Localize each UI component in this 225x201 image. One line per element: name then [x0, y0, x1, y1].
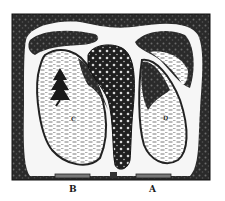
entrance-label-a: A	[149, 184, 156, 194]
region-label-d: D	[163, 114, 168, 121]
region-label-c: C	[71, 115, 76, 122]
garden-plan-diagram	[0, 0, 225, 201]
gate-wall-a	[136, 174, 171, 178]
gate-post-center	[110, 172, 117, 178]
gate-wall-b	[55, 174, 90, 178]
entrance-label-b: B	[69, 184, 77, 194]
